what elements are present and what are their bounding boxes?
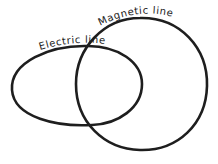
magnetic-line-label-text: Magnetic line xyxy=(96,4,174,27)
magnetic-line-label: Magnetic line xyxy=(96,4,174,27)
diagram-canvas: Electric line Magnetic line xyxy=(0,0,218,164)
electric-line-label-text: Electric line xyxy=(37,34,106,52)
electric-line-label: Electric line xyxy=(37,34,106,52)
